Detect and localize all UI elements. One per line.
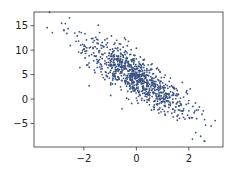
data-point bbox=[157, 109, 159, 111]
data-point bbox=[169, 97, 171, 99]
data-point bbox=[195, 132, 197, 134]
data-point bbox=[132, 70, 134, 72]
data-point bbox=[115, 69, 117, 71]
data-point bbox=[152, 73, 154, 75]
data-point bbox=[176, 93, 178, 95]
data-point bbox=[133, 86, 135, 88]
data-point bbox=[147, 64, 149, 66]
data-point bbox=[148, 85, 150, 87]
data-point bbox=[132, 58, 134, 60]
data-point bbox=[158, 95, 160, 97]
data-point bbox=[46, 27, 48, 29]
data-point bbox=[148, 75, 150, 77]
data-point bbox=[153, 107, 155, 109]
data-point bbox=[157, 100, 159, 102]
data-point bbox=[122, 46, 124, 48]
data-point bbox=[95, 55, 97, 57]
data-point bbox=[138, 72, 140, 74]
data-point bbox=[94, 72, 96, 74]
data-point bbox=[177, 114, 179, 116]
data-point bbox=[143, 64, 145, 66]
data-point bbox=[136, 83, 138, 85]
data-point bbox=[148, 104, 150, 106]
data-point bbox=[124, 50, 126, 52]
data-point bbox=[93, 40, 95, 42]
data-point bbox=[160, 86, 162, 88]
data-point bbox=[144, 69, 146, 71]
data-point bbox=[158, 87, 160, 89]
data-point bbox=[119, 49, 121, 51]
data-point bbox=[169, 105, 171, 107]
data-point bbox=[80, 32, 82, 34]
data-point bbox=[198, 106, 200, 108]
data-point bbox=[205, 124, 207, 126]
x-tick-label: −2 bbox=[77, 153, 92, 164]
data-point bbox=[162, 88, 164, 90]
data-point bbox=[108, 64, 110, 66]
data-point bbox=[146, 79, 148, 81]
data-point bbox=[99, 66, 101, 68]
data-point bbox=[144, 95, 146, 97]
data-point bbox=[172, 116, 174, 118]
data-point bbox=[146, 71, 148, 73]
data-point bbox=[100, 56, 102, 58]
data-point bbox=[183, 108, 185, 110]
data-point bbox=[188, 110, 190, 112]
data-point bbox=[189, 117, 191, 119]
data-point bbox=[122, 56, 124, 58]
data-point bbox=[133, 58, 135, 60]
data-point bbox=[193, 112, 195, 114]
data-point bbox=[88, 66, 90, 68]
data-point bbox=[100, 63, 102, 65]
data-point bbox=[126, 78, 128, 80]
data-point bbox=[109, 71, 111, 73]
data-point bbox=[128, 83, 130, 85]
data-point bbox=[153, 109, 155, 111]
data-point bbox=[172, 93, 174, 95]
data-point bbox=[185, 104, 187, 106]
data-point bbox=[116, 48, 118, 50]
data-point bbox=[79, 67, 81, 69]
data-point bbox=[121, 61, 123, 63]
data-point bbox=[164, 102, 166, 104]
data-point bbox=[176, 89, 178, 91]
data-point bbox=[171, 112, 173, 114]
data-point bbox=[78, 51, 80, 53]
data-point bbox=[92, 41, 94, 43]
data-point bbox=[135, 64, 137, 66]
data-point bbox=[146, 99, 148, 101]
data-point bbox=[178, 105, 180, 107]
data-point bbox=[129, 76, 131, 78]
data-point bbox=[150, 69, 152, 71]
data-point bbox=[66, 33, 68, 35]
y-tick-label: 15 bbox=[15, 20, 28, 31]
data-point bbox=[80, 44, 82, 46]
data-point bbox=[130, 66, 132, 68]
data-point bbox=[106, 38, 108, 40]
data-point bbox=[204, 119, 206, 121]
data-point bbox=[158, 103, 160, 105]
data-point bbox=[86, 50, 88, 52]
data-point bbox=[163, 76, 165, 78]
data-point bbox=[142, 90, 144, 92]
data-point bbox=[61, 22, 63, 24]
data-point bbox=[108, 72, 110, 74]
data-point bbox=[149, 95, 151, 97]
data-point bbox=[141, 75, 143, 77]
data-point bbox=[159, 80, 161, 82]
data-point bbox=[101, 66, 103, 68]
data-point bbox=[179, 101, 181, 103]
data-point bbox=[160, 95, 162, 97]
data-point bbox=[164, 104, 166, 106]
data-point bbox=[146, 88, 148, 90]
data-point bbox=[107, 42, 109, 44]
data-point bbox=[186, 90, 188, 92]
data-point bbox=[125, 39, 127, 41]
data-point bbox=[131, 73, 133, 75]
data-point bbox=[137, 77, 139, 79]
data-point bbox=[156, 84, 158, 86]
data-point bbox=[132, 88, 134, 90]
data-point bbox=[150, 64, 152, 66]
data-point bbox=[151, 82, 153, 84]
data-point bbox=[137, 102, 139, 104]
